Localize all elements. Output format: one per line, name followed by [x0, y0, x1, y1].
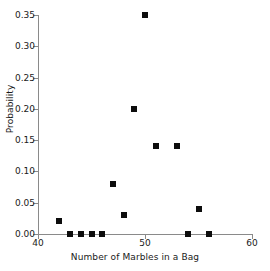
y-tick-label: 0.35 — [15, 11, 35, 20]
data-point — [89, 231, 95, 237]
y-tick-label: 0.10 — [15, 167, 35, 176]
data-point — [142, 12, 148, 18]
data-point — [131, 106, 137, 112]
data-point — [99, 231, 105, 237]
data-point — [56, 218, 62, 224]
y-tick-label: 0.25 — [15, 73, 35, 82]
data-point — [110, 181, 116, 187]
x-tick-label: 60 — [246, 239, 257, 248]
data-point — [185, 231, 191, 237]
x-tick-label: 40 — [32, 239, 43, 248]
data-point — [174, 143, 180, 149]
data-point — [153, 143, 159, 149]
y-tick-label: 0.15 — [15, 136, 35, 145]
scatter-chart: 0.000.050.100.150.200.250.300.35 405060 … — [0, 0, 270, 271]
data-point — [121, 212, 127, 218]
y-tick-label: 0.30 — [15, 42, 35, 51]
data-point — [67, 231, 73, 237]
y-tick-label: 0.20 — [15, 104, 35, 113]
x-tick-label: 50 — [139, 239, 150, 248]
y-tick-label: 0.05 — [15, 198, 35, 207]
data-point — [78, 231, 84, 237]
data-point — [196, 206, 202, 212]
data-point — [206, 231, 212, 237]
x-axis-title: Number of Marbles in a Bag — [0, 252, 270, 262]
y-axis-title: Probability — [5, 54, 15, 164]
plot-area — [38, 16, 252, 234]
